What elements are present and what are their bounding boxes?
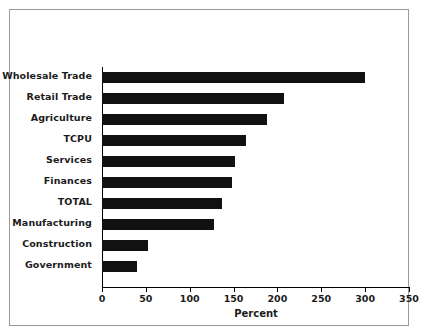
y-axis-label-slot: Construction bbox=[0, 235, 92, 256]
x-axis-tick-mark bbox=[102, 288, 103, 292]
bar bbox=[102, 219, 214, 230]
x-axis-tick-label: 50 bbox=[126, 293, 166, 304]
bar bbox=[102, 177, 232, 188]
bar bbox=[102, 156, 235, 167]
bar-row bbox=[102, 151, 409, 172]
y-axis-label-slot: Finances bbox=[0, 172, 92, 193]
y-axis-tick-label: Agriculture bbox=[0, 112, 92, 123]
bar-row bbox=[102, 193, 409, 214]
plot-area: Wholesale TradeRetail TradeAgricultureTC… bbox=[102, 67, 409, 287]
bar-row bbox=[102, 130, 409, 151]
x-axis-tick-label: 0 bbox=[82, 293, 122, 304]
y-axis-label-slot: Agriculture bbox=[0, 109, 92, 130]
x-axis-tick-mark bbox=[146, 288, 147, 292]
bar bbox=[102, 114, 267, 125]
y-axis-label-slot: Retail Trade bbox=[0, 88, 92, 109]
x-axis-tick-label: 350 bbox=[389, 293, 424, 304]
x-axis-tick-mark bbox=[321, 288, 322, 292]
bar bbox=[102, 72, 365, 83]
bar-row bbox=[102, 172, 409, 193]
bar-row bbox=[102, 214, 409, 235]
y-axis-tick-label: Manufacturing bbox=[0, 217, 92, 228]
bar bbox=[102, 240, 148, 251]
y-axis-tick-label: TCPU bbox=[0, 133, 92, 144]
bar-row bbox=[102, 67, 409, 88]
y-axis-category-labels: Wholesale TradeRetail TradeAgricultureTC… bbox=[0, 67, 102, 287]
y-axis-tick-label: Wholesale Trade bbox=[0, 70, 92, 81]
x-axis-tick-mark bbox=[409, 288, 410, 292]
bar bbox=[102, 93, 284, 104]
y-axis-label-slot: Government bbox=[0, 256, 92, 277]
x-axis-tick-label: 100 bbox=[170, 293, 210, 304]
bar-row bbox=[102, 235, 409, 256]
x-axis-tick-mark bbox=[277, 288, 278, 292]
bar-row bbox=[102, 109, 409, 130]
y-axis-tick-label: Retail Trade bbox=[0, 91, 92, 102]
y-axis-tick-label: Services bbox=[0, 154, 92, 165]
x-axis-tick-mark bbox=[365, 288, 366, 292]
y-axis-tick-label: TOTAL bbox=[0, 196, 92, 207]
x-axis-tick-label: 200 bbox=[257, 293, 297, 304]
y-axis-label-slot: Wholesale Trade bbox=[0, 67, 92, 88]
bar-row bbox=[102, 88, 409, 109]
y-axis-label-slot: Services bbox=[0, 151, 92, 172]
bar bbox=[102, 261, 137, 272]
y-axis-tick-label: Government bbox=[0, 259, 92, 270]
x-axis-title: Percent bbox=[102, 308, 410, 319]
bar bbox=[102, 135, 246, 146]
y-axis-label-slot: Manufacturing bbox=[0, 214, 92, 235]
x-axis-tick-mark bbox=[234, 288, 235, 292]
x-axis-tick-mark bbox=[190, 288, 191, 292]
y-axis-label-slot: TCPU bbox=[0, 130, 92, 151]
y-axis-label-slot: TOTAL bbox=[0, 193, 92, 214]
x-axis-tick-label: 250 bbox=[301, 293, 341, 304]
bar-row bbox=[102, 256, 409, 277]
x-axis-ticks: 050100150200250300350 bbox=[102, 288, 410, 310]
bar bbox=[102, 198, 222, 209]
x-axis-tick-label: 150 bbox=[214, 293, 254, 304]
y-axis-tick-label: Finances bbox=[0, 175, 92, 186]
y-axis-tick-label: Construction bbox=[0, 238, 92, 249]
chart-frame: Wholesale TradeRetail TradeAgricultureTC… bbox=[9, 9, 409, 326]
x-axis-tick-label: 300 bbox=[345, 293, 385, 304]
